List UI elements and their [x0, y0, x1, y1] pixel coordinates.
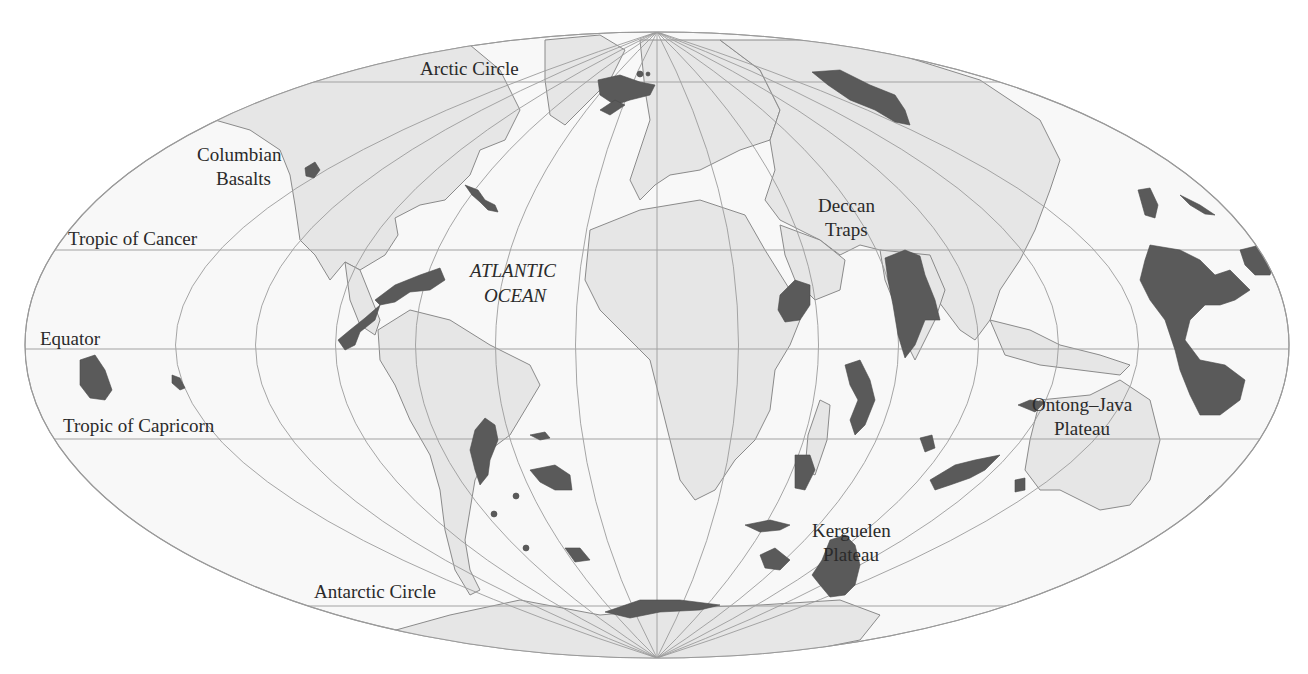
label-antarctic-circle: Antarctic Circle [314, 581, 436, 602]
label-columbian-line1: Columbian [197, 144, 282, 165]
label-tropic-of-capricorn: Tropic of Capricorn [63, 415, 215, 436]
label-deccan-line1: Deccan [818, 195, 875, 216]
label-deccan-line2: Traps [825, 219, 868, 240]
label-ocean-line1: ATLANTIC [468, 260, 556, 281]
world-map: Arctic Circle Tropic of Cancer Equator T… [0, 0, 1308, 674]
label-ocean-line2: OCEAN [484, 285, 548, 306]
label-ontong-line2: Plateau [1054, 418, 1110, 439]
label-tropic-of-cancer: Tropic of Cancer [68, 228, 198, 249]
label-kerguelen-line1: Kerguelen [812, 520, 891, 541]
label-equator: Equator [40, 328, 101, 349]
label-ontong-line1: Ontong–Java [1032, 394, 1133, 415]
label-kerguelen-line2: Plateau [823, 544, 879, 565]
label-arctic-circle: Arctic Circle [420, 58, 519, 79]
label-columbian-line2: Basalts [216, 168, 271, 189]
